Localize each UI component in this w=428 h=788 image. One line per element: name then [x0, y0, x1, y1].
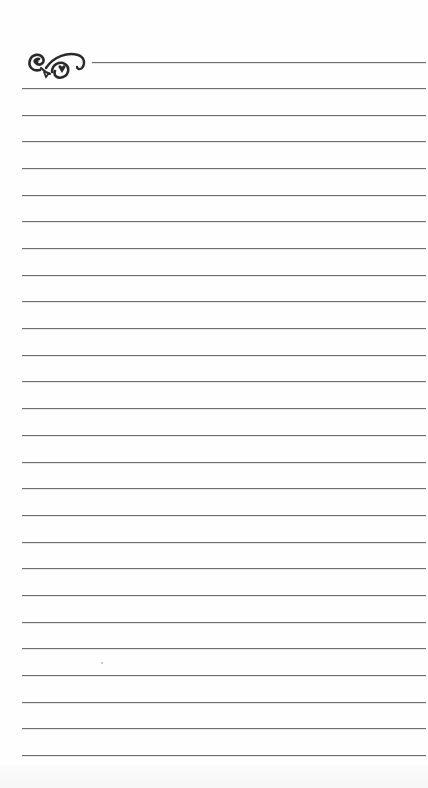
ruled-line	[22, 195, 426, 196]
ruled-line	[22, 702, 426, 703]
ruled-line	[22, 542, 426, 543]
ruled-line	[22, 515, 426, 516]
ruled-line	[22, 221, 426, 222]
ruled-line	[22, 355, 426, 356]
ruled-line	[22, 248, 426, 249]
flourish-ornament-icon	[26, 50, 88, 80]
ruled-line	[22, 88, 426, 89]
ruled-line	[22, 435, 426, 436]
ruled-line	[22, 728, 426, 729]
ruled-line	[22, 648, 426, 649]
paper-speck	[101, 662, 103, 664]
ruled-line	[22, 488, 426, 489]
ruled-line	[22, 675, 426, 676]
ruled-line	[22, 115, 426, 116]
ruled-line	[22, 595, 426, 596]
ruled-line	[22, 328, 426, 329]
ruled-line	[22, 275, 426, 276]
ruled-line	[22, 381, 426, 382]
notepaper-page	[0, 0, 428, 788]
ruled-line	[22, 168, 426, 169]
ruled-line	[22, 141, 426, 142]
ruled-line	[22, 301, 426, 302]
header-rule	[92, 62, 426, 63]
ruled-line	[22, 622, 426, 623]
ruled-line	[22, 462, 426, 463]
ruled-line	[22, 568, 426, 569]
page-bottom-edge	[0, 766, 428, 788]
ruled-line	[22, 408, 426, 409]
ruled-line	[22, 755, 426, 756]
